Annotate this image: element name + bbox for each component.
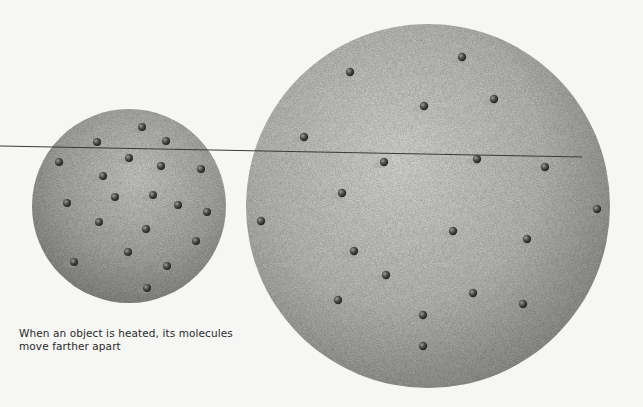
caption: When an object is heated, its molecules … — [19, 327, 279, 353]
molecule — [111, 193, 119, 201]
molecule — [197, 165, 205, 173]
molecule — [143, 284, 151, 292]
molecule — [523, 235, 531, 243]
molecule — [192, 237, 200, 245]
molecule — [382, 271, 390, 279]
molecule — [157, 162, 165, 170]
molecule — [380, 158, 388, 166]
molecule — [142, 225, 150, 233]
small-sphere — [32, 109, 226, 303]
molecule — [541, 163, 549, 171]
molecule — [63, 199, 71, 207]
caption-line-1: When an object is heated, its molecules — [19, 327, 279, 340]
caption-line-2: move farther apart — [19, 340, 279, 353]
molecule — [338, 189, 346, 197]
molecule — [490, 95, 498, 103]
molecule — [346, 68, 354, 76]
molecule — [300, 133, 308, 141]
molecule — [473, 155, 481, 163]
molecule — [458, 53, 466, 61]
molecule — [519, 300, 527, 308]
molecule — [174, 201, 182, 209]
molecule — [149, 191, 157, 199]
molecule — [99, 172, 107, 180]
molecule — [593, 205, 601, 213]
sphere-texture — [246, 24, 610, 388]
molecule — [419, 342, 427, 350]
molecule — [203, 208, 211, 216]
molecule — [124, 248, 132, 256]
molecule — [334, 296, 342, 304]
molecule — [350, 247, 358, 255]
diagram: When an object is heated, its molecules … — [0, 0, 643, 407]
molecule — [70, 258, 78, 266]
molecule — [419, 311, 427, 319]
molecule — [162, 137, 170, 145]
molecule — [125, 154, 133, 162]
molecule — [163, 262, 171, 270]
molecule — [469, 289, 477, 297]
molecule — [257, 217, 265, 225]
large-sphere — [246, 24, 610, 388]
molecule — [420, 102, 428, 110]
molecule — [449, 227, 457, 235]
molecule — [95, 218, 103, 226]
molecule — [55, 158, 63, 166]
molecule — [138, 123, 146, 131]
molecule — [93, 138, 101, 146]
